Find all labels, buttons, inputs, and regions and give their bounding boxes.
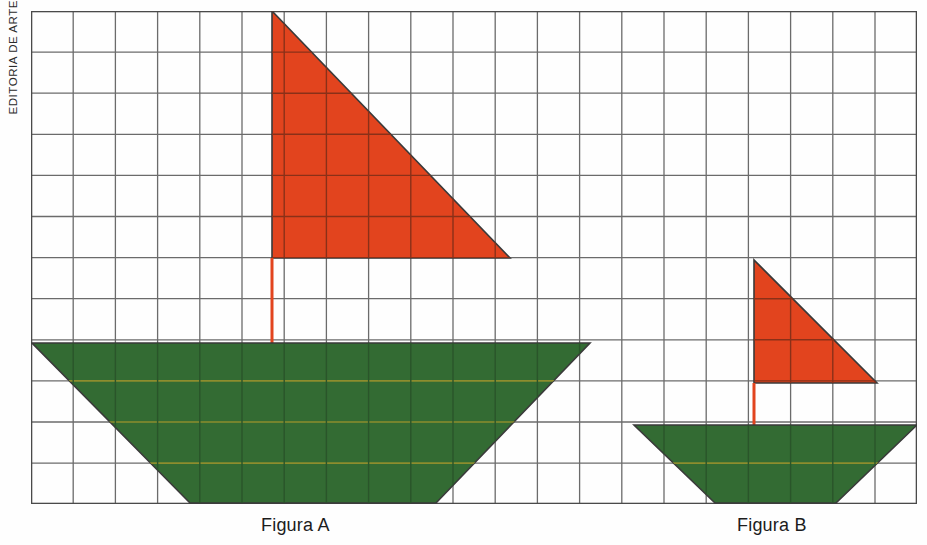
- credit-text: EDITORIA DE ARTE: [8, 0, 20, 118]
- figure-a-group: [32, 11, 590, 503]
- credit-line: EDITORIA DE ARTE: [0, 0, 28, 200]
- figure-b-hull: [634, 425, 917, 503]
- figure-a-sail: [272, 11, 510, 258]
- boat-shapes: [31, 11, 917, 504]
- graph-paper-grid: [31, 11, 917, 504]
- figure-b-group: [634, 260, 917, 503]
- figure-a-hull: [32, 343, 590, 503]
- figure-a-label: Figura A: [261, 515, 330, 536]
- figure-b-sail: [754, 260, 877, 383]
- figure-b-label: Figura B: [737, 515, 807, 536]
- illustration-canvas: EDITORIA DE ARTE: [0, 0, 927, 545]
